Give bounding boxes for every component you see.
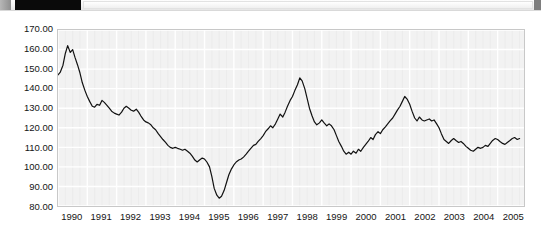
y-axis-tick-label: 130.00	[1, 103, 53, 113]
x-axis-tick-label: 1994	[179, 211, 200, 222]
y-axis-tick-label: 160.00	[1, 44, 53, 54]
y-axis-tick-label: 110.00	[1, 143, 53, 153]
x-axis-tick-label: 1998	[297, 211, 318, 222]
x-axis-tick-label: 2004	[473, 211, 494, 222]
toolbar-text-field[interactable]	[83, 1, 533, 9]
x-axis-tick-label: 2005	[503, 211, 524, 222]
y-axis-tick-label: 120.00	[1, 123, 53, 133]
toolbar-end-marker-icon[interactable]	[534, 0, 541, 10]
redacted-title-block	[15, 0, 81, 10]
top-toolbar	[0, 0, 541, 11]
y-axis-tick-label: 150.00	[1, 64, 53, 74]
x-axis-tick-label: 2000	[355, 211, 376, 222]
y-axis-tick-label: 80.00	[1, 202, 53, 212]
x-axis-tick-label: 1990	[61, 211, 82, 222]
x-axis-tick-label: 1997	[267, 211, 288, 222]
x-axis-tick-label: 2003	[444, 211, 465, 222]
x-axis-tick-label: 1993	[149, 211, 170, 222]
y-axis-tick-label: 90.00	[1, 182, 53, 192]
x-axis-tick-label: 1996	[238, 211, 259, 222]
line-chart: 170.00160.00150.00140.00130.00120.00110.…	[0, 11, 541, 239]
y-axis-tick-label: 170.00	[1, 24, 53, 34]
plot-area	[57, 29, 525, 207]
series-polyline	[58, 46, 520, 199]
y-axis: 170.00160.00150.00140.00130.00120.00110.…	[0, 11, 53, 239]
x-axis-tick-label: 1992	[120, 211, 141, 222]
x-axis-tick-label: 2002	[414, 211, 435, 222]
x-axis-tick-label: 1999	[326, 211, 347, 222]
x-axis-tick-label: 1995	[208, 211, 229, 222]
toolbar-handle-icon[interactable]	[0, 0, 11, 10]
data-series-line	[58, 30, 524, 206]
x-axis-tick-label: 2001	[385, 211, 406, 222]
x-axis: 1990199119921993199419951996199719981999…	[57, 211, 525, 231]
y-axis-tick-label: 140.00	[1, 83, 53, 93]
x-axis-tick-label: 1991	[91, 211, 112, 222]
y-axis-tick-label: 100.00	[1, 162, 53, 172]
